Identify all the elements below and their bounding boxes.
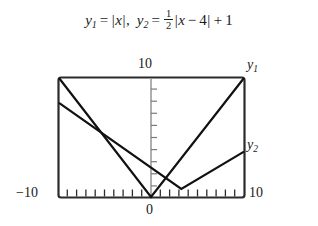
graph-viewport: 10 −10 10 0 y1 y2 <box>0 0 318 226</box>
graph-svg <box>0 0 318 226</box>
curve-label-y2: y2 <box>247 138 258 155</box>
curve-label-y1: y1 <box>247 58 258 75</box>
axis-label-x-max: 10 <box>249 186 263 200</box>
curve-label-y1-subscript: 1 <box>253 64 258 74</box>
curve-label-y2-subscript: 2 <box>253 144 258 154</box>
axis-label-origin: 0 <box>146 203 153 217</box>
axis-label-x-min: −10 <box>16 186 38 200</box>
axis-label-y-max: 10 <box>138 57 152 71</box>
figure-root: y1=|x|,y2=12|x−4|+1 <box>0 0 318 226</box>
